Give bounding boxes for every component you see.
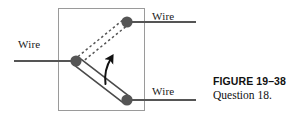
top-contact-node — [121, 16, 132, 27]
wire-label-left: Wire — [18, 38, 40, 50]
figure-panel: Wire Wire Wire FIGURE 19–38 Question 18. — [0, 0, 302, 123]
figure-caption: FIGURE 19–38 Question 18. — [213, 75, 301, 102]
figure-caption-title: FIGURE 19–38 — [213, 75, 301, 88]
figure-caption-subtitle: Question 18. — [213, 88, 301, 102]
wire-label-top: Wire — [152, 10, 174, 22]
pivot-node — [70, 55, 81, 66]
bottom-contact-node — [121, 94, 132, 105]
physics-diagram — [0, 0, 302, 123]
wire-label-bottom: Wire — [152, 85, 174, 97]
